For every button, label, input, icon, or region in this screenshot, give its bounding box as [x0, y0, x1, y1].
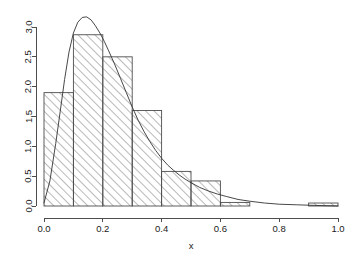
y-tick-label: 0.5	[23, 170, 34, 183]
x-tick-label: 1.0	[331, 223, 344, 234]
y-tick-label: 0.0	[23, 199, 34, 212]
x-tick-label: 0.8	[273, 223, 286, 234]
x-axis-title: x	[189, 240, 194, 251]
x-tick-label: 0.4	[155, 223, 168, 234]
histogram-bar-fill	[132, 111, 161, 206]
histogram-bar-fill	[220, 202, 249, 206]
histogram-bar-fill	[162, 171, 191, 206]
x-tick-label: 0.0	[37, 223, 50, 234]
histogram-bar-fill	[73, 35, 102, 206]
x-tick-label: 0.6	[214, 223, 227, 234]
y-tick-label: 2.5	[23, 50, 34, 63]
y-tick-label: 2.0	[23, 80, 34, 93]
histogram-bar-fill	[103, 57, 132, 206]
x-tick-label: 0.2	[96, 223, 109, 234]
chart-canvas: 0.00.20.40.60.81.0 0.00.51.01.52.02.53.0…	[0, 0, 363, 260]
histogram-plot: 0.00.20.40.60.81.0 0.00.51.01.52.02.53.0…	[0, 0, 363, 260]
y-tick-label: 1.0	[23, 140, 34, 153]
histogram-bar-fill	[44, 93, 73, 206]
y-tick-label: 1.5	[23, 110, 34, 123]
y-tick-label: 3.0	[23, 20, 34, 33]
